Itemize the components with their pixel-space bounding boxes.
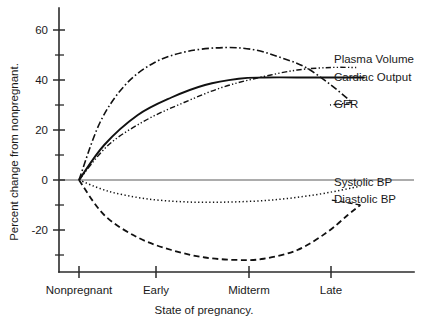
series-label-systolic-bp: Systolic BP xyxy=(334,176,392,188)
label-leader-lines xyxy=(330,103,360,206)
y-axis-title: Percent change from nonpregnant. xyxy=(8,63,20,241)
series-label-diastolic-bp: Diastolic BP xyxy=(334,193,396,205)
x-tick-label-nonpregnant: Nonpregnant xyxy=(46,284,113,296)
series-line-diastolic-bp xyxy=(79,180,360,260)
series-label-cardiac-output: Cardiac Output xyxy=(334,71,412,83)
series-line-gfr xyxy=(79,47,352,180)
series-line-plasma-volume xyxy=(79,67,356,180)
chart-figure: 60 40 20 0 -20 Nonpregnant Early Midterm… xyxy=(0,0,423,328)
series-line-systolic-bp xyxy=(79,180,360,202)
series-curves xyxy=(79,47,365,260)
y-tick-label-20: 20 xyxy=(35,124,48,136)
y-tick-label-60: 60 xyxy=(35,24,48,36)
series-label-gfr: GFR xyxy=(334,98,358,110)
x-axis-title: State of pregnancy. xyxy=(155,304,254,316)
x-tick-label-midterm: Midterm xyxy=(228,284,270,296)
series-label-plasma-volume: Plasma Volume xyxy=(334,53,414,65)
y-tick-label-neg20: -20 xyxy=(31,224,48,236)
chart-canvas: 60 40 20 0 -20 Nonpregnant Early Midterm… xyxy=(0,0,423,328)
x-tick-label-early: Early xyxy=(143,284,169,296)
series-line-cardiac-output xyxy=(79,77,365,180)
x-tick-label-late: Late xyxy=(320,284,342,296)
y-tick-label-40: 40 xyxy=(35,74,48,86)
y-tick-label-0: 0 xyxy=(42,174,48,186)
